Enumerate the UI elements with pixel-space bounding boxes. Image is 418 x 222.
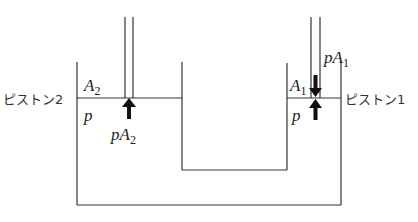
area-1-label: A1 — [289, 76, 306, 98]
hydraulic-press-diagram: ピストン2 ピストン1 A2 p pA2 pA1 A1 p — [0, 0, 418, 222]
pressure-right-label: p — [291, 106, 301, 125]
pressure-left-label: p — [83, 106, 93, 125]
arrow-up-icon — [309, 99, 322, 120]
arrow-up-icon — [122, 98, 136, 119]
force-2-label: pA2 — [110, 125, 136, 147]
force-1-label: pA1 — [323, 48, 349, 70]
piston-1-label: ピストン1 — [345, 92, 405, 107]
piston-2-label: ピストン2 — [3, 92, 63, 107]
area-2-label: A2 — [83, 76, 100, 98]
